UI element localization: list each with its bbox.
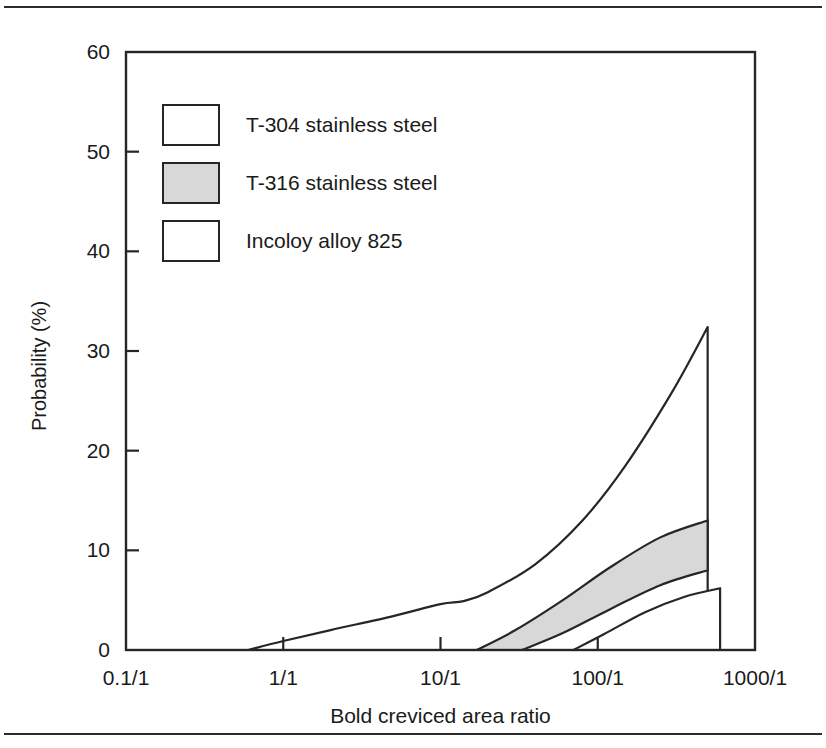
legend-swatch — [162, 162, 220, 204]
legend-item-3[interactable]: Incoloy alloy 825 — [162, 220, 402, 262]
x-tick-label: 100/1 — [571, 666, 624, 690]
x-tick-label: 0.1/1 — [103, 666, 150, 690]
x-axis-title: Bold creviced area ratio — [330, 704, 551, 728]
legend-item-1[interactable]: T-304 stainless steel — [162, 104, 437, 146]
x-tick-label: 1000/1 — [723, 666, 787, 690]
y-axis-title: Probability (%) — [28, 301, 51, 431]
series-band-1 — [248, 327, 707, 650]
legend-label: T-316 stainless steel — [246, 171, 437, 195]
legend-label: T-304 stainless steel — [246, 113, 437, 137]
legend-swatch — [162, 104, 220, 146]
y-tick-label: 60 — [60, 40, 110, 64]
figure-root: 0102030405060 0.1/11/110/1100/11000/1 Pr… — [0, 0, 826, 748]
y-tick-label: 20 — [60, 439, 110, 463]
x-tick-label: 1/1 — [269, 666, 298, 690]
legend-label: Incoloy alloy 825 — [246, 229, 402, 253]
legend-item-2[interactable]: T-316 stainless steel — [162, 162, 437, 204]
y-tick-label: 10 — [60, 538, 110, 562]
y-tick-label: 40 — [60, 239, 110, 263]
chart-area: 0102030405060 0.1/11/110/1100/11000/1 Pr… — [0, 0, 826, 748]
x-tick-label: 10/1 — [420, 666, 461, 690]
y-tick-label: 0 — [60, 638, 110, 662]
y-tick-label: 50 — [60, 140, 110, 164]
y-tick-label: 30 — [60, 339, 110, 363]
legend-swatch — [162, 220, 220, 262]
